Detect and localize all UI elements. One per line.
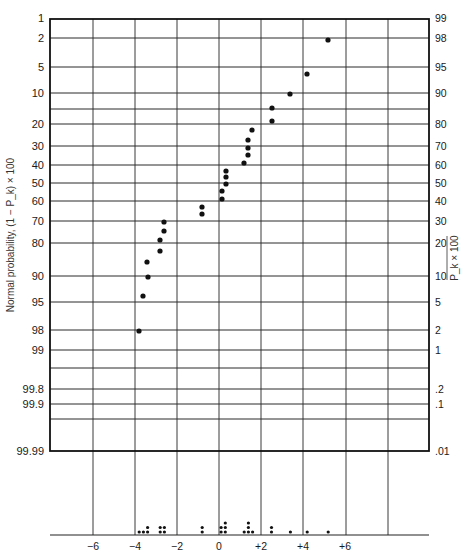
data-point [219, 188, 224, 193]
dot-diagram-dot [220, 530, 223, 533]
dot-diagram-dot [243, 530, 246, 533]
left-tick-label: 80 [32, 237, 44, 249]
data-point [145, 274, 150, 279]
data-point [157, 248, 162, 253]
left-tick-label: 2 [38, 32, 44, 44]
dot-diagram-dot [220, 526, 223, 529]
data-point [245, 137, 250, 142]
left-tick-label: 99.9 [23, 398, 44, 410]
right-tick-label: 20 [435, 237, 447, 249]
right-tick-label: 99 [435, 12, 447, 24]
data-point [157, 237, 162, 242]
data-point [241, 160, 246, 165]
right-tick-label: 60 [435, 159, 447, 171]
left-tick-label: 10 [32, 87, 44, 99]
right-axis-title: P_k × 100 [447, 235, 460, 281]
left-tick-label: 95 [32, 296, 44, 308]
right-tick-label: 50 [435, 177, 447, 189]
data-point [161, 228, 166, 233]
dot-diagram-dot [247, 530, 250, 533]
data-point [249, 127, 254, 132]
right-tick-label: 40 [435, 195, 447, 207]
left-axis-title: Normal probability, (1 − P_k) × 100 [5, 157, 16, 312]
dot-diagram-dot [270, 526, 273, 529]
dot-diagram-dot [327, 530, 330, 533]
x-tick-label: +2 [255, 540, 267, 552]
dot-diagram-dot [251, 530, 254, 533]
right-tick-label: 70 [435, 140, 447, 152]
left-tick-label: 99.8 [23, 383, 44, 395]
left-tick-label: 99.99 [16, 445, 44, 457]
horizontal-gridlines [50, 38, 429, 419]
probability-points [136, 37, 330, 333]
dot-diagram-dot [306, 530, 309, 533]
data-point [304, 71, 309, 76]
right-tick-label: 5 [435, 296, 441, 308]
data-point [223, 174, 228, 179]
data-point [136, 328, 141, 333]
right-tick-label: 80 [435, 118, 447, 130]
right-tick-label: 95 [435, 61, 447, 73]
left-tick-label: 70 [32, 215, 44, 227]
data-point [144, 259, 149, 264]
dot-diagram-dot [142, 530, 145, 533]
vertical-gridlines [93, 19, 388, 535]
dot-diagram-dot [163, 530, 166, 533]
data-point [223, 168, 228, 173]
left-tick-label: 5 [38, 61, 44, 73]
right-tick-label: 10 [435, 270, 447, 282]
x-tick-label: −4 [129, 540, 141, 552]
left-tick-label: 60 [32, 195, 44, 207]
dot-diagram-dot [224, 526, 227, 529]
data-point [269, 105, 274, 110]
x-tick-label: 0 [216, 540, 222, 552]
right-tick-label: 1 [435, 344, 441, 356]
x-tick-label: −2 [171, 540, 183, 552]
left-tick-label: 98 [32, 324, 44, 336]
dot-diagram-dot [163, 526, 166, 529]
right-tick-label: 30 [435, 215, 447, 227]
normal-probability-chart: 2510203040506070809095989999.899.9199.99… [0, 0, 470, 557]
data-point [140, 293, 145, 298]
right-tick-label: .1 [435, 398, 444, 410]
right-axis-title-text: P_k × 100 [449, 235, 460, 281]
data-point [287, 91, 292, 96]
data-point [199, 211, 204, 216]
data-point [199, 204, 204, 209]
dot-diagram-dot [201, 526, 204, 529]
left-axis-ticks: 2510203040506070809095989999.899.9199.99 [16, 12, 44, 457]
right-tick-label: .01 [435, 445, 450, 457]
right-tick-label: 98 [435, 32, 447, 44]
data-point [245, 145, 250, 150]
left-tick-label: 90 [32, 270, 44, 282]
dot-diagram-dot [224, 521, 227, 524]
x-axis-ticks: −6−4−20+2+4+6 [87, 540, 351, 552]
left-tick-label: 20 [32, 118, 44, 130]
right-tick-label: 90 [435, 87, 447, 99]
left-tick-label: 50 [32, 177, 44, 189]
dot-diagram-dot [138, 530, 141, 533]
dot-diagram-dot [224, 530, 227, 533]
dot-diagram-dot [289, 530, 292, 533]
data-point [245, 152, 250, 157]
right-axis-ticks: 9895908070605040302010521.2.199.01 [435, 12, 450, 457]
plot-frame [50, 19, 429, 451]
x-tick-label: +6 [339, 540, 351, 552]
dot-diagram-dot [159, 530, 162, 533]
left-tick-label: 1 [38, 12, 44, 24]
data-point [161, 219, 166, 224]
data-point [223, 181, 228, 186]
data-point [325, 37, 330, 42]
data-point [219, 196, 224, 201]
dot-diagram-dot [201, 530, 204, 533]
right-tick-label: .2 [435, 383, 444, 395]
data-point [269, 118, 274, 123]
dot-diagram-dot [159, 526, 162, 529]
dot-diagram [138, 521, 330, 533]
dot-diagram-dot [247, 521, 250, 524]
x-tick-label: −6 [87, 540, 99, 552]
dot-diagram-dot [146, 530, 149, 533]
x-tick-label: +4 [297, 540, 309, 552]
left-tick-label: 40 [32, 159, 44, 171]
left-tick-label: 99 [32, 344, 44, 356]
